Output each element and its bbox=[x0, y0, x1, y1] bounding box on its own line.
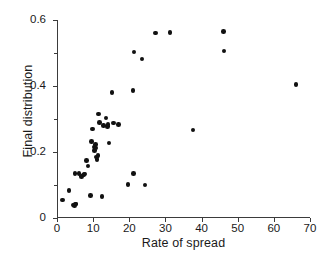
data-point bbox=[60, 198, 65, 203]
y-axis-title: Final distribution bbox=[21, 31, 35, 191]
data-point bbox=[131, 88, 136, 93]
x-tick-label: 20 bbox=[109, 223, 149, 235]
data-point bbox=[93, 142, 98, 147]
x-tick-label: 40 bbox=[182, 223, 222, 235]
scatter-figure: Final distribution 00.20.40.6 0102030405… bbox=[0, 0, 328, 273]
y-minor-tick-mark bbox=[54, 185, 57, 186]
x-tick-label: 10 bbox=[73, 223, 113, 235]
data-point bbox=[132, 50, 137, 55]
data-point bbox=[96, 153, 101, 158]
y-tick-mark bbox=[53, 86, 57, 87]
y-tick-mark bbox=[53, 152, 57, 153]
x-tick-label: 0 bbox=[37, 223, 77, 235]
data-point bbox=[191, 128, 196, 133]
data-point bbox=[95, 157, 100, 162]
y-tick-mark bbox=[53, 20, 57, 21]
data-point bbox=[88, 193, 93, 198]
data-point bbox=[67, 188, 72, 193]
data-point bbox=[116, 122, 121, 127]
data-point bbox=[90, 127, 95, 132]
data-point bbox=[83, 172, 88, 177]
data-point bbox=[143, 183, 148, 188]
plot-area: 00.20.40.6 010203040506070 bbox=[57, 20, 310, 218]
data-point bbox=[84, 158, 89, 163]
x-tick-label: 30 bbox=[145, 223, 185, 235]
data-point bbox=[222, 49, 227, 54]
data-point bbox=[294, 82, 299, 87]
x-tick-label: 70 bbox=[290, 223, 328, 235]
y-tick-label: 0 bbox=[6, 212, 46, 224]
data-point bbox=[153, 31, 158, 36]
y-tick-label: 0.2 bbox=[6, 146, 46, 158]
data-point bbox=[96, 112, 101, 117]
y-tick-label: 0.4 bbox=[6, 80, 46, 92]
x-axis-title: Rate of spread bbox=[57, 236, 310, 250]
data-point bbox=[104, 116, 109, 121]
y-tick-label: 0.6 bbox=[6, 14, 46, 26]
x-tick-label: 50 bbox=[218, 223, 258, 235]
y-minor-tick-mark bbox=[54, 119, 57, 120]
data-point bbox=[74, 202, 79, 207]
data-point bbox=[131, 171, 136, 176]
data-point bbox=[86, 164, 91, 169]
x-axis-line bbox=[57, 217, 310, 218]
data-point bbox=[221, 29, 226, 34]
data-point bbox=[140, 57, 145, 62]
data-point bbox=[106, 122, 111, 127]
data-point bbox=[126, 182, 131, 187]
y-axis-line bbox=[57, 20, 58, 218]
data-point bbox=[111, 121, 116, 126]
data-point bbox=[168, 30, 173, 35]
data-point bbox=[107, 141, 112, 146]
data-point bbox=[100, 194, 105, 199]
x-tick-label: 60 bbox=[254, 223, 294, 235]
data-point bbox=[110, 90, 115, 95]
y-minor-tick-mark bbox=[54, 53, 57, 54]
